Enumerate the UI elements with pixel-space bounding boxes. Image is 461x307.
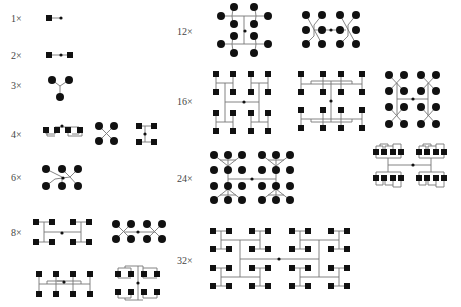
array-16x-a [213,71,271,134]
sub-tl [213,231,268,249]
topology-diagram [0,0,461,307]
array-24x-a [210,151,294,204]
array-1x [46,15,63,21]
array-8x-a [33,219,92,245]
array-32x [210,228,350,289]
array-12x-a [217,3,272,57]
array-3x [48,76,73,101]
array-4x-c [136,123,157,145]
array-2x [46,52,73,58]
array-12x-b [302,11,360,48]
array-8x-c [36,271,93,297]
array-16x-b [298,71,365,131]
array-6x [42,165,82,190]
array-4x-b [95,122,118,145]
array-8x-b [112,220,166,243]
array-4x-a [43,124,83,136]
array-8x-d [115,266,160,300]
sub-bl [213,268,268,286]
array-24x-b [373,144,447,187]
sub-tr [292,231,347,249]
sub-br [292,268,347,286]
array-16x-c [385,71,440,128]
